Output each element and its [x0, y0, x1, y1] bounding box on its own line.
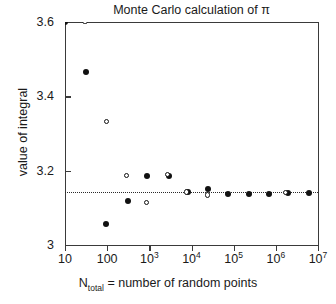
- y-tick-label: 3.6: [24, 16, 54, 28]
- data-point: [65, 22, 68, 25]
- data-point: [103, 221, 109, 227]
- data-point: [104, 119, 109, 124]
- x-tick-mark: [107, 245, 108, 251]
- x-tick-mark: [65, 245, 66, 251]
- x-axis-title: Ntotal = number of random points: [0, 276, 336, 290]
- chart-figure: Monte Carlo calculation of π 33.23.43.6 …: [0, 0, 336, 304]
- x-tick-label: 106: [253, 252, 299, 266]
- x-tick-label: 105: [211, 252, 257, 266]
- data-point: [306, 190, 312, 196]
- x-axis-title-sub: total: [88, 283, 104, 293]
- data-point: [144, 200, 149, 205]
- y-axis-title: value of integral: [16, 62, 30, 202]
- y-tick-label: 3: [24, 239, 54, 251]
- x-tick-label: 104: [169, 252, 215, 266]
- data-point: [225, 191, 231, 197]
- x-tick-label: 107: [295, 252, 336, 266]
- x-tick-mark: [276, 245, 277, 251]
- x-tick-mark: [192, 245, 193, 251]
- data-point: [82, 22, 87, 24]
- data-point: [144, 173, 150, 179]
- x-tick-mark: [149, 245, 150, 251]
- x-tick-mark: [318, 245, 319, 251]
- reference-line-pi: [65, 192, 318, 193]
- data-point: [125, 198, 131, 204]
- data-point: [83, 69, 89, 75]
- data-point: [205, 192, 210, 197]
- x-tick-mark: [234, 245, 235, 251]
- data-point: [246, 191, 252, 197]
- x-tick-label: 10: [42, 252, 88, 266]
- data-point: [124, 173, 129, 178]
- data-point: [266, 191, 272, 197]
- chart-title: Monte Carlo calculation of π: [65, 3, 318, 18]
- x-tick-label: 103: [126, 252, 172, 266]
- data-layer: [65, 22, 318, 245]
- x-axis-title-main: N: [79, 276, 88, 290]
- data-point: [205, 186, 211, 192]
- x-axis-title-rest: = number of random points: [104, 276, 257, 290]
- x-tick-label: 100: [84, 252, 130, 266]
